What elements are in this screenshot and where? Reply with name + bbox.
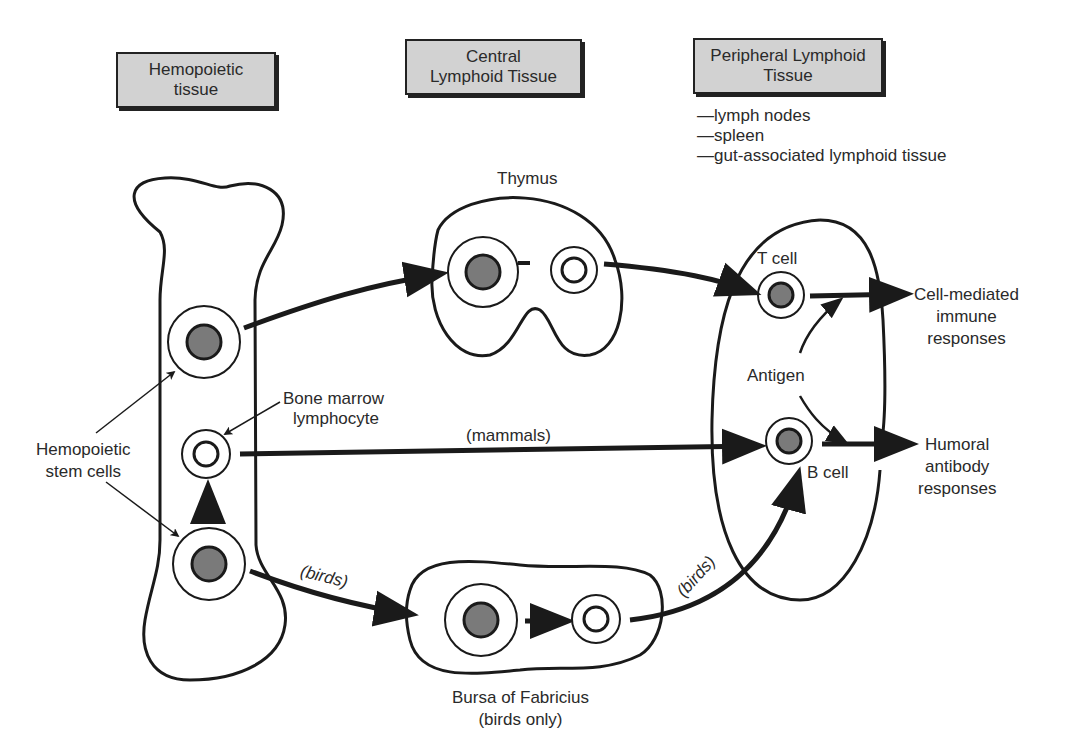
stem-cell-lower bbox=[173, 528, 245, 600]
stem-cell-upper bbox=[168, 306, 240, 378]
label-line: stem cells bbox=[36, 461, 131, 483]
header-line: tissue bbox=[118, 80, 274, 100]
label-line: Cell-mediated bbox=[914, 284, 1019, 306]
bone-marrow-lymphocyte-label: Bone marrow lymphocyte bbox=[283, 389, 384, 429]
header-line: Lymphoid Tissue bbox=[407, 67, 580, 87]
label-line: Hemopoietic bbox=[36, 439, 131, 461]
header-line: Tissue bbox=[695, 66, 881, 86]
arrow-thymus-to-t-cell bbox=[604, 264, 753, 292]
bursa-stem-cell bbox=[445, 584, 517, 656]
t-cell bbox=[758, 272, 804, 318]
header-line: Peripheral Lymphoid bbox=[695, 46, 881, 66]
label-line: responses bbox=[914, 328, 1019, 350]
bone-marrow-lymphocyte-cell bbox=[182, 430, 230, 478]
thymus-label: Thymus bbox=[497, 168, 557, 189]
label-line: responses bbox=[918, 478, 996, 500]
header-hemopoietic-tissue: Hemopoietic tissue bbox=[116, 52, 276, 108]
bone-outline bbox=[134, 178, 285, 680]
arrow-antigen-up bbox=[800, 300, 840, 353]
label-line: Bursa of Fabricius bbox=[452, 687, 589, 709]
arrow-cell-mediated bbox=[810, 294, 905, 296]
label-line: antibody bbox=[918, 456, 996, 478]
t-cell-label: T cell bbox=[757, 248, 797, 269]
list-item: —gut-associated lymphoid tissue bbox=[697, 146, 946, 166]
humoral-label: Humoral antibody responses bbox=[918, 434, 996, 500]
b-cell-label: B cell bbox=[807, 462, 849, 483]
label-line: (birds only) bbox=[452, 709, 589, 731]
mammals-label: (mammals) bbox=[466, 425, 551, 446]
bursa-lymphocyte bbox=[572, 595, 620, 643]
header-line: Central bbox=[407, 47, 580, 67]
header-line: Hemopoietic bbox=[118, 60, 274, 80]
label-line: immune bbox=[914, 306, 1019, 328]
arrow-bone-to-thymus bbox=[244, 274, 440, 328]
bursa-label: Bursa of Fabricius (birds only) bbox=[452, 687, 589, 731]
label-line: Humoral bbox=[918, 434, 996, 456]
hemopoietic-stem-cells-label: Hemopoietic stem cells bbox=[36, 439, 131, 483]
thymus-stem-cell bbox=[448, 237, 518, 307]
header-peripheral-lymphoid-tissue: Peripheral Lymphoid Tissue bbox=[693, 38, 883, 94]
cell-mediated-label: Cell-mediated immune responses bbox=[914, 284, 1019, 350]
antigen-label: Antigen bbox=[747, 365, 805, 386]
peripheral-tissue-list: —lymph nodes —spleen —gut-associated lym… bbox=[697, 106, 946, 166]
b-cell bbox=[766, 418, 812, 464]
label-line: Bone marrow bbox=[283, 389, 384, 409]
thymus-lymphocyte bbox=[551, 247, 597, 293]
label-line: lymphocyte bbox=[283, 409, 384, 429]
arrow-mammals bbox=[240, 446, 758, 454]
list-item: —spleen bbox=[697, 126, 946, 146]
list-item: —lymph nodes bbox=[697, 106, 946, 126]
header-central-lymphoid-tissue: Central Lymphoid Tissue bbox=[405, 39, 582, 95]
peripheral-tissue-outline bbox=[820, 220, 885, 440]
